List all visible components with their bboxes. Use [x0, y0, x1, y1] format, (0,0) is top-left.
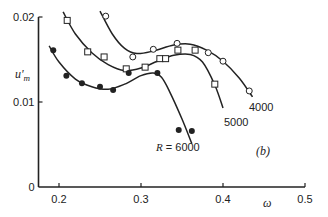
fit-curve-r5000 [63, 12, 223, 108]
x-tick-label: 0.2 [51, 193, 66, 205]
marker-filled-circle [176, 127, 182, 133]
marker-open-square [64, 17, 70, 23]
marker-open-square [163, 56, 169, 62]
marker-filled-circle [97, 84, 103, 90]
y-tick-label: 0 [28, 181, 34, 193]
marker-open-square [142, 64, 148, 70]
marker-open-circle [246, 88, 252, 94]
marker-open-square [192, 47, 198, 53]
y-axis-label: u'm [15, 67, 31, 83]
chart-figure: 0.20.30.40.500.010.02 u'm ω (b) 4000 500… [0, 0, 328, 217]
marker-open-circle [103, 13, 109, 19]
panel-label: (b) [256, 144, 270, 158]
x-tick-label: 0.5 [297, 193, 312, 205]
marker-filled-circle [189, 128, 195, 134]
curve-label-5000: 5000 [224, 116, 248, 128]
x-tick-label: 0.3 [133, 193, 148, 205]
curve-label-6000: R = 6000 [155, 141, 200, 153]
y-tick-label: 0.01 [13, 96, 34, 108]
marker-open-circle [150, 46, 156, 52]
marker-open-square [101, 54, 107, 60]
y-axis-label-sub: m [24, 73, 31, 83]
marker-open-circle [205, 50, 211, 56]
fit-curve-r6000 [49, 46, 192, 144]
marker-open-circle [174, 40, 180, 46]
fit-curves [49, 11, 252, 144]
marker-open-circle [220, 58, 226, 64]
fit-curve-r4000 [100, 11, 253, 97]
x-tick-label: 0.4 [215, 193, 230, 205]
marker-open-square [157, 56, 163, 62]
marker-open-square [85, 49, 91, 55]
y-tick-label: 0.02 [13, 11, 34, 23]
marker-open-circle [130, 54, 136, 60]
marker-filled-circle [79, 80, 85, 86]
curve-label-4000: 4000 [249, 101, 273, 113]
x-axis-label: ω [263, 196, 271, 210]
marker-filled-circle [50, 47, 56, 53]
marker-filled-circle [110, 87, 116, 93]
marker-open-square [175, 47, 181, 53]
annotations: u'm ω (b) 4000 5000 R = 6000 [15, 67, 273, 210]
marker-filled-circle [63, 73, 69, 79]
marker-filled-circle [126, 70, 132, 76]
marker-filled-circle [154, 70, 160, 76]
marker-open-square [212, 81, 218, 87]
